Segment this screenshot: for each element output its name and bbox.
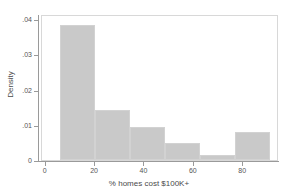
y-tick-label: .04 (12, 16, 32, 23)
y-tick-mark (34, 126, 38, 127)
y-tick-mark (34, 161, 38, 162)
x-tick-label: 60 (178, 166, 208, 175)
x-tick-label: 80 (227, 166, 257, 175)
histogram-bar (165, 143, 200, 160)
x-tick-label: 40 (128, 166, 158, 175)
y-tick-mark (34, 20, 38, 21)
histogram-bar (130, 127, 165, 160)
histogram-bar (235, 132, 270, 160)
y-tick-label: .03 (12, 51, 32, 58)
x-axis-title: % homes cost $100K+ (0, 179, 298, 188)
y-tick-label: 0 (12, 157, 32, 164)
x-tick-label: 0 (30, 166, 60, 175)
y-axis-line (38, 15, 39, 162)
histogram-figure: 020406080 0.01.02.03.04 % homes cost $10… (0, 0, 298, 196)
y-tick-label: .02 (12, 87, 32, 94)
histogram-bar (95, 110, 130, 160)
histogram-bar (60, 25, 95, 160)
bars-layer (42, 16, 277, 160)
x-tick-label: 20 (79, 166, 109, 175)
y-tick-mark (34, 55, 38, 56)
histogram-bar (200, 155, 235, 160)
plot-area (41, 15, 278, 161)
y-tick-label: .01 (12, 122, 32, 129)
y-axis-title: Density (6, 55, 15, 115)
y-tick-mark (34, 91, 38, 92)
